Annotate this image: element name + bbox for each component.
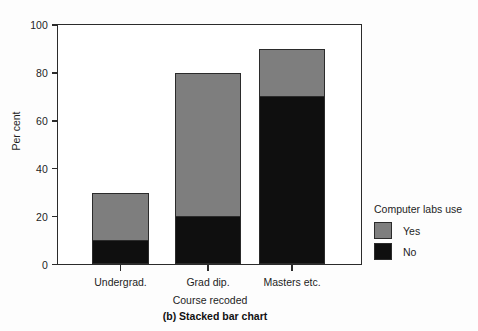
bar-segment-yes[interactable]	[175, 73, 241, 217]
y-axis-tick-mark	[52, 72, 57, 74]
y-axis-tick-mark	[52, 264, 57, 266]
legend-entry[interactable]: Yes	[374, 220, 478, 241]
legend-label: No	[403, 246, 416, 258]
figure-caption: (b) Stacked bar chart	[0, 310, 430, 322]
legend-swatch-no	[374, 243, 392, 260]
legend-entries: YesNo	[374, 220, 478, 262]
y-axis-tick-label: 80	[14, 67, 48, 79]
x-axis-title: Course recoded	[0, 294, 420, 306]
bar-segment-no[interactable]	[175, 217, 241, 265]
stacked-bar[interactable]	[259, 49, 325, 265]
y-axis-tick-mark	[52, 168, 57, 170]
y-axis-tick-mark	[52, 120, 57, 122]
x-axis-tick-mark	[291, 265, 293, 271]
bar-segment-yes[interactable]	[259, 49, 325, 97]
legend: Computer labs use YesNo	[374, 203, 478, 262]
legend-entry[interactable]: No	[374, 241, 478, 262]
y-axis-tick-mark	[52, 24, 57, 26]
legend-title: Computer labs use	[374, 203, 478, 215]
y-axis-tick-label: 60	[14, 115, 48, 127]
stacked-bar[interactable]	[92, 193, 149, 265]
y-axis-title: Per cent	[10, 101, 22, 161]
y-axis-tick-label: 0	[14, 259, 48, 271]
y-axis-tick-label: 20	[14, 211, 48, 223]
x-axis-tick-label: Masters etc.	[242, 276, 342, 288]
bar-segment-no[interactable]	[92, 241, 149, 265]
legend-label: Yes	[403, 225, 420, 237]
y-axis-tick-mark	[52, 216, 57, 218]
y-axis-tick-label: 40	[14, 163, 48, 175]
x-axis-tick-label: Undergrad.	[71, 276, 171, 288]
x-axis-tick-mark	[207, 265, 209, 271]
legend-swatch-yes	[374, 222, 392, 239]
bar-segment-no[interactable]	[259, 97, 325, 265]
stacked-bar-chart-figure: Per cent 020406080100 Undergrad.Grad dip…	[0, 0, 478, 331]
y-axis-tick-label: 100	[14, 19, 48, 31]
bar-segment-yes[interactable]	[92, 193, 149, 241]
x-axis-tick-mark	[120, 265, 122, 271]
stacked-bar[interactable]	[175, 73, 241, 265]
